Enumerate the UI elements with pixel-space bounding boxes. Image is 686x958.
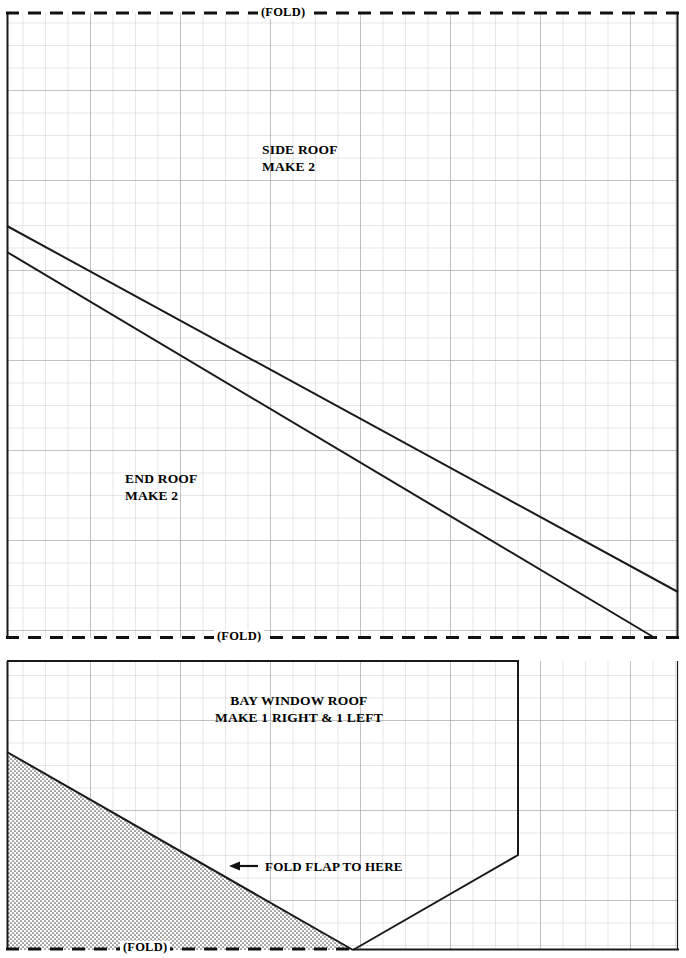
- top-panel: [7, 13, 678, 638]
- bottom-fold-label: (FOLD): [120, 941, 170, 954]
- side-roof-label-line1: SIDE ROOF: [262, 141, 338, 158]
- top-panel-bottom-fold-label: (FOLD): [214, 630, 264, 643]
- end-roof-label-line1: END ROOF: [125, 470, 197, 487]
- bay-window-roof-label: BAY WINDOW ROOF MAKE 1 RIGHT & 1 LEFT: [215, 692, 383, 726]
- end-roof-label-line2: MAKE 2: [125, 487, 197, 504]
- pattern-artwork: [0, 0, 686, 958]
- bay-window-roof-label-line1: BAY WINDOW ROOF: [215, 692, 383, 709]
- side-roof-label-line2: MAKE 2: [262, 158, 338, 175]
- top-fold-label: (FOLD): [258, 6, 308, 19]
- side-roof-label: SIDE ROOF MAKE 2: [262, 141, 338, 175]
- end-roof-label: END ROOF MAKE 2: [125, 470, 197, 504]
- bay-window-roof-label-line2: MAKE 1 RIGHT & 1 LEFT: [215, 709, 383, 726]
- fold-flap-annotation: FOLD FLAP TO HERE: [265, 859, 403, 874]
- pattern-sheet: (FOLD) SIDE ROOF MAKE 2 END ROOF MAKE 2 …: [0, 0, 686, 958]
